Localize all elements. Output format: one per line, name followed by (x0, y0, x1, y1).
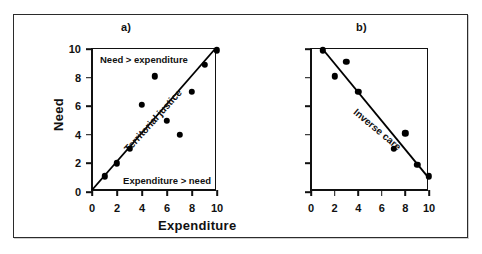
x-tick-label: 0 (89, 202, 95, 214)
y-tick (305, 163, 311, 165)
y-tick (86, 77, 92, 79)
y-tick (305, 191, 311, 193)
x-tick (166, 190, 168, 196)
x-tick-label: 4 (355, 202, 361, 214)
x-tick (357, 190, 359, 196)
x-tick-label: 6 (164, 202, 170, 214)
x-tick (405, 190, 407, 196)
x-tick (216, 190, 218, 196)
x-tick-label: 10 (211, 202, 223, 214)
y-tick-label: 6 (75, 100, 81, 112)
y-tick (305, 134, 311, 136)
y-tick-label: 0 (75, 186, 81, 198)
x-tick (141, 190, 143, 196)
panel-a-y-axis-title: Need (51, 98, 66, 131)
y-tick-label: 4 (75, 129, 81, 141)
panel-a-label: a) (6, 21, 246, 33)
y-tick (86, 191, 92, 193)
panel-b: b) Inverse care 0246810 (254, 15, 469, 239)
x-tick-label: 4 (139, 202, 145, 214)
x-tick-label: 0 (308, 202, 314, 214)
y-tick (86, 134, 92, 136)
x-tick-label: 2 (114, 202, 120, 214)
x-tick (191, 190, 193, 196)
x-tick (116, 190, 118, 196)
x-tick (428, 190, 430, 196)
panel-a-x-axis-title: Expenditure (158, 218, 236, 233)
panel-b-plot-area: Inverse care 0246810 (310, 48, 428, 191)
figure-frame: a) Need > expenditure Expenditure > need… (13, 14, 468, 238)
figure-root: a) Need > expenditure Expenditure > need… (0, 0, 482, 254)
panel-a-note-upper: Need > expenditure (100, 54, 188, 65)
y-tick (305, 105, 311, 107)
x-tick-label: 2 (332, 202, 338, 214)
x-tick-label: 8 (189, 202, 195, 214)
x-tick-label: 6 (379, 202, 385, 214)
panel-a: a) Need > expenditure Expenditure > need… (14, 15, 254, 239)
y-tick (305, 77, 311, 79)
x-tick-label: 10 (423, 202, 435, 214)
x-tick-label: 8 (402, 202, 408, 214)
panel-b-label: b) (254, 21, 469, 33)
data-point (214, 47, 220, 53)
y-tick-label: 8 (75, 72, 81, 84)
data-point (426, 173, 432, 179)
y-tick (305, 48, 311, 50)
y-tick-label: 2 (75, 157, 81, 169)
panel-a-plot-area: Need > expenditure Expenditure > need Te… (91, 48, 216, 191)
y-tick-label: 10 (69, 43, 81, 55)
x-tick (334, 190, 336, 196)
x-tick (381, 190, 383, 196)
y-tick (86, 163, 92, 165)
y-tick (86, 105, 92, 107)
y-tick (86, 48, 92, 50)
panel-a-note-lower: Expenditure > need (123, 175, 211, 186)
